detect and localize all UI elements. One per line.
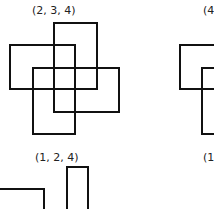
panel-4-rect-2 [201, 67, 214, 135]
panel-label-4-partial: (4 [203, 5, 214, 16]
diagram-canvas: (2, 3, 4) (4 (1, 2, 4) (1 [0, 0, 214, 209]
panel-label-1-partial: (1 [203, 152, 214, 163]
panel-1-2-4-rect-1 [0, 188, 45, 209]
panel-1-2-4-rect-2 [66, 166, 89, 209]
panel-2-3-4-rect-4 [53, 67, 120, 113]
panel-label-1-2-4: (1, 2, 4) [35, 152, 79, 163]
panel-label-2-3-4: (2, 3, 4) [32, 5, 76, 16]
